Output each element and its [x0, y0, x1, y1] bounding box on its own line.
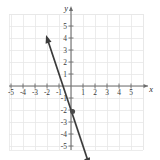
x-tick-label: -4: [20, 88, 26, 97]
graph-svg: -5-4-3-2-112345 54321-1-2-3-4-5 x y: [0, 0, 160, 160]
y-tick-label: -2: [61, 106, 67, 115]
y-tick-label: 5: [63, 22, 67, 31]
x-tick-label: 3: [105, 88, 109, 97]
x-tick-label: 5: [129, 88, 133, 97]
y-tick-label: -5: [61, 142, 67, 151]
x-tick-label: -2: [44, 88, 50, 97]
y-tick-label: -4: [61, 130, 67, 139]
x-tick-label: 2: [93, 88, 97, 97]
x-tick-label: -5: [8, 88, 14, 97]
x-tick-label: -3: [32, 88, 38, 97]
y-tick-label: 4: [63, 34, 67, 43]
y-axis-name-label: y: [63, 4, 68, 13]
x-tick-label: 4: [117, 88, 121, 97]
y-tick-label: 3: [63, 46, 67, 55]
coordinate-plane-figure: -5-4-3-2-112345 54321-1-2-3-4-5 x y: [0, 0, 160, 160]
y-tick-label: 1: [63, 70, 67, 79]
y-tick-label: 2: [63, 58, 67, 67]
plotted-points-group: [70, 109, 75, 114]
x-tick-label: 1: [81, 88, 85, 97]
y-tick-label: -3: [61, 118, 67, 127]
x-axis-name-label: x: [148, 85, 153, 94]
plotted-point-marker: [70, 109, 75, 114]
